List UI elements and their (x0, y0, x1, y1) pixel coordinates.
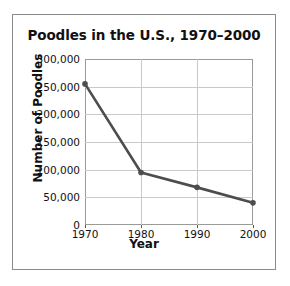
series-line (85, 84, 253, 203)
y-axis-tick-label: 250,000 (37, 81, 80, 93)
chart-figure: Poodles in the U.S., 1970–2000 Number of… (12, 14, 276, 270)
data-point-marker (250, 200, 256, 206)
data-point-marker (138, 170, 144, 176)
y-axis-tick-label: 50,000 (43, 191, 80, 203)
y-axis-tick-label: 100,000 (37, 164, 80, 176)
chart-title: Poodles in the U.S., 1970–2000 (13, 27, 275, 43)
y-axis-tick-label: 200,000 (37, 108, 80, 120)
plot-wrapper: 050,000100,000150,000200,000250,000300,0… (85, 59, 253, 225)
y-axis-tick-label: 150,000 (37, 136, 80, 148)
data-point-marker (194, 185, 200, 191)
data-point-marker (82, 81, 88, 87)
data-series-line (85, 59, 253, 225)
x-axis-label: Year (13, 237, 275, 251)
y-axis-tick-label: 300,000 (37, 53, 80, 65)
